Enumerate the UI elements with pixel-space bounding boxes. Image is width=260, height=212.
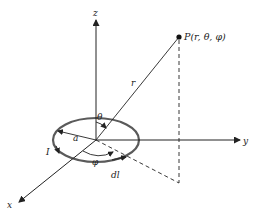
theta-arc	[96, 122, 106, 128]
y-axis-label: y	[242, 136, 249, 146]
current-label: I	[45, 147, 50, 157]
phi-label: φ	[92, 157, 99, 167]
x-axis-label: x	[7, 200, 12, 210]
point-p	[176, 34, 181, 39]
diagram-canvas: z y x P(r, θ, φ) r θ a I φ dl	[0, 0, 260, 212]
point-p-label: P(r, θ, φ)	[183, 31, 226, 42]
dl-label: dl	[111, 170, 120, 180]
r-label: r	[131, 78, 136, 88]
phi-arc	[83, 151, 113, 156]
radius-vector-r	[96, 37, 179, 140]
radius-a-label: a	[73, 133, 78, 143]
theta-label: θ	[97, 112, 103, 122]
z-axis-label: z	[92, 8, 98, 18]
